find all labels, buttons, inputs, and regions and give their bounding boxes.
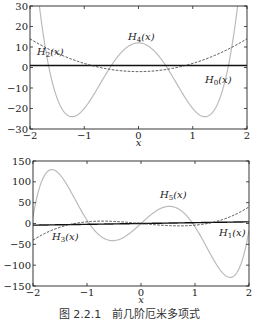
figure-caption: 图 2.2.1 前几阶厄米多项式 [0,305,259,321]
y-tick-label: −150 [4,281,31,292]
x-tick-label: 1 [190,130,196,141]
y-tick-label: 150 [12,156,31,167]
curves [30,0,247,117]
y-tick-label: 10 [15,42,28,53]
curve-h1x [33,222,249,225]
y-tick-label: −10 [7,83,28,94]
curve-label-h1x: H1(x) [218,227,246,240]
bottom-plot-odd-polynomials: −2−1012−150−100−50050100150xH1(x)H3(x)H5… [4,156,253,306]
y-tick-label: 20 [15,21,28,32]
x-axis-label: x [136,137,142,148]
y-tick-label: 0 [22,62,28,73]
x-tick-label: 2 [244,130,250,141]
curves [33,170,249,278]
curve-label-h4x: H4(x) [127,31,155,44]
x-tick-label: 1 [192,287,198,298]
x-tick-label: 2 [246,287,252,298]
y-tick-label: −30 [7,124,28,135]
y-tick-label: −50 [10,239,31,250]
top-plot-even-polynomials: −2−1012−30−20−100102030xH0(x)H2(x)H4(x) [7,0,250,148]
y-tick-label: 0 [25,218,31,229]
curve-label-h2x: H2(x) [36,46,64,59]
curve-label-h0x: H0(x) [204,74,232,87]
curve-label-h3x: H3(x) [51,231,79,244]
y-tick-label: −100 [4,260,31,271]
y-tick-label: 50 [18,197,31,208]
y-tick-label: 30 [15,1,28,12]
x-tick-label: −1 [80,287,95,298]
x-axis-label: x [138,294,144,305]
y-tick-label: 100 [12,176,31,187]
y-tick-label: −20 [7,103,28,114]
curve-label-h5x: H5(x) [159,189,187,202]
x-tick-label: −1 [77,130,92,141]
curve-h4x [30,0,247,117]
